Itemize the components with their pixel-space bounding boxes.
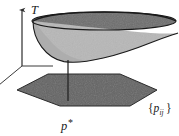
optimum-point-symbol: p — [60, 119, 67, 133]
figure-canvas: T p * — [0, 0, 179, 136]
optimum-point-label: p * — [60, 117, 73, 133]
paraboloid-bowl — [32, 12, 178, 62]
feasible-set-subscript: ij — [160, 108, 164, 117]
figure-svg: T p * — [0, 0, 179, 136]
vertical-axis-label: T — [31, 3, 39, 17]
feasible-set-label: { p ij } — [148, 102, 172, 117]
hexagonal-feasible-region — [17, 74, 157, 106]
optimum-point-star: * — [68, 117, 73, 128]
feasible-set-symbol: p — [153, 102, 160, 115]
depth-axis — [0, 66, 22, 85]
feasible-set-close-brace: } — [166, 102, 172, 114]
